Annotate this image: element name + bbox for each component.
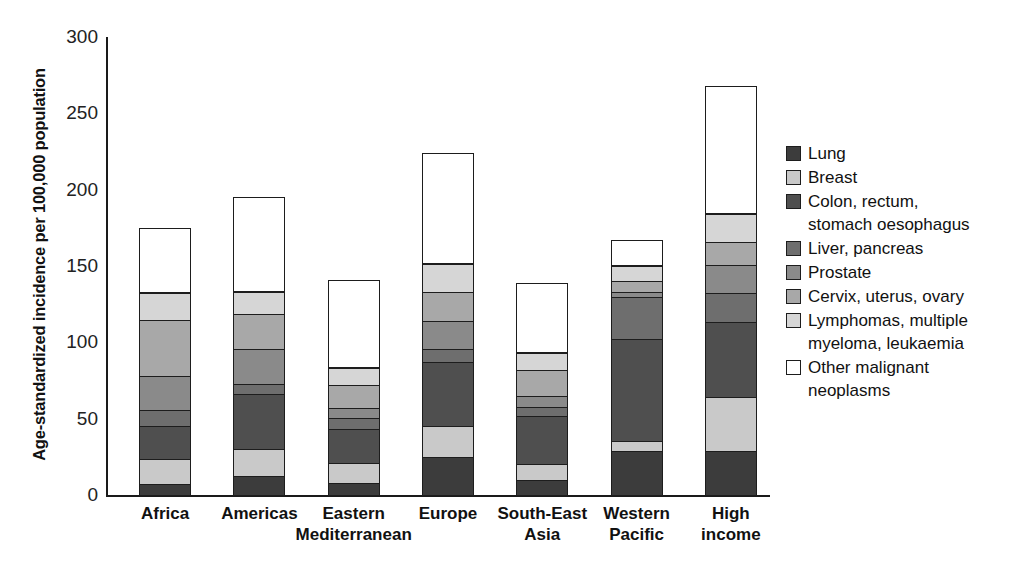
bar-africa	[139, 228, 191, 495]
bar-segment	[139, 459, 191, 485]
bar-segment	[139, 426, 191, 461]
legend-swatch-icon	[786, 146, 801, 161]
bar-segment	[516, 283, 568, 353]
bar-segment	[328, 483, 380, 497]
bar-segment	[516, 370, 568, 397]
x-tick-label-line1: Americas	[221, 504, 298, 523]
stacked-bar-chart-figure: Age-standardized incidence per 100,000 p…	[0, 0, 1011, 570]
bar-segment	[139, 320, 191, 378]
bar-segment	[516, 416, 568, 465]
bar-segment	[611, 339, 663, 443]
x-tick-label-line1: High	[712, 504, 750, 523]
legend-swatch-icon	[786, 194, 801, 209]
bar-europe	[422, 153, 474, 495]
bar-segment	[705, 214, 757, 243]
bar-segment	[705, 265, 757, 294]
y-tick-mark	[100, 37, 106, 39]
x-tick-label-line1: Western	[603, 504, 670, 523]
x-tick-label-line1: Eastern	[323, 504, 385, 523]
bar-segment	[611, 266, 663, 283]
legend-label: Cervix, uterus, ovary	[808, 285, 964, 308]
bar-segment	[233, 314, 285, 351]
legend-item: Liver, pancreas	[786, 237, 1006, 260]
bar-segment	[233, 394, 285, 450]
bar-americas	[233, 197, 285, 495]
legend: LungBreastColon, rectum, stomach oesopha…	[786, 142, 1006, 403]
bar-segment	[139, 484, 191, 496]
bar-south-east-asia	[516, 283, 568, 495]
y-tick-label: 200	[44, 179, 98, 201]
bar-segment	[328, 463, 380, 484]
legend-swatch-icon	[786, 241, 801, 256]
legend-item: Cervix, uterus, ovary	[786, 285, 1006, 308]
legend-label: Breast	[808, 166, 857, 189]
bar-segment	[233, 476, 285, 496]
bar-segment	[233, 292, 285, 315]
bar-segment	[422, 426, 474, 458]
bar-segment	[139, 376, 191, 411]
bar-segment	[705, 451, 757, 497]
bar-segment	[422, 321, 474, 350]
legend-swatch-icon	[786, 289, 801, 304]
bar-segment	[705, 86, 757, 214]
plot-area: AfricaAmericasEasternMediterraneanEurope…	[110, 37, 770, 495]
bar-segment	[611, 240, 663, 266]
bar-high-income	[705, 86, 757, 495]
legend-swatch-icon	[786, 313, 801, 328]
legend-item: Lung	[786, 142, 1006, 165]
bar-segment	[705, 242, 757, 266]
legend-label: Other malignant neoplasms	[808, 356, 929, 402]
legend-item: Colon, rectum, stomach oesophagus	[786, 190, 1006, 236]
y-tick-mark	[100, 113, 106, 115]
legend-label: Lung	[808, 142, 846, 165]
bar-segment	[516, 464, 568, 481]
bar-segment	[611, 297, 663, 340]
legend-swatch-icon	[786, 170, 801, 185]
bar-segment	[516, 480, 568, 497]
bar-segment	[422, 153, 474, 264]
y-tick-mark	[100, 190, 106, 192]
bar-segment	[422, 457, 474, 497]
bar-segment	[233, 349, 285, 386]
y-tick-label: 50	[44, 408, 98, 430]
y-tick-label: 0	[44, 484, 98, 506]
y-tick-mark	[100, 419, 106, 421]
legend-label: Prostate	[808, 261, 871, 284]
x-tick-label-line2: income	[667, 524, 795, 545]
bar-segment	[705, 293, 757, 324]
bar-segment	[516, 353, 568, 371]
bar-segment	[328, 368, 380, 386]
bar-segment	[422, 362, 474, 428]
bar-segment	[139, 410, 191, 427]
x-tick-label-line1: Africa	[141, 504, 189, 523]
x-tick-label-line1: Europe	[419, 504, 478, 523]
legend-swatch-icon	[786, 360, 801, 375]
bar-eastern-mediterranean	[328, 280, 380, 495]
x-tick-label-high-income: Highincome	[667, 503, 795, 545]
bar-segment	[233, 449, 285, 478]
bar-segment	[139, 228, 191, 294]
y-tick-mark	[100, 495, 106, 497]
y-tick-label: 100	[44, 331, 98, 353]
bar-segment	[139, 293, 191, 320]
y-tick-label: 150	[44, 255, 98, 277]
bar-segment	[422, 292, 474, 323]
bar-segment	[328, 280, 380, 369]
legend-label: Colon, rectum, stomach oesophagus	[808, 190, 970, 236]
legend-item: Prostate	[786, 261, 1006, 284]
legend-swatch-icon	[786, 265, 801, 280]
x-tick-label-line2: Mediterranean	[290, 524, 418, 545]
bar-segment	[611, 451, 663, 497]
bar-segment	[705, 397, 757, 452]
bar-segment	[705, 322, 757, 398]
bar-segment	[328, 385, 380, 409]
legend-item: Lymphomas, multiple myeloma, leukaemia	[786, 309, 1006, 355]
y-axis-line	[106, 37, 108, 496]
legend-label: Lymphomas, multiple myeloma, leukaemia	[808, 309, 968, 355]
y-tick-label: 300	[44, 26, 98, 48]
legend-item: Other malignant neoplasms	[786, 356, 1006, 402]
bar-segment	[422, 264, 474, 293]
legend-item: Breast	[786, 166, 1006, 189]
y-tick-mark	[100, 342, 106, 344]
bar-western-pacific	[611, 240, 663, 495]
